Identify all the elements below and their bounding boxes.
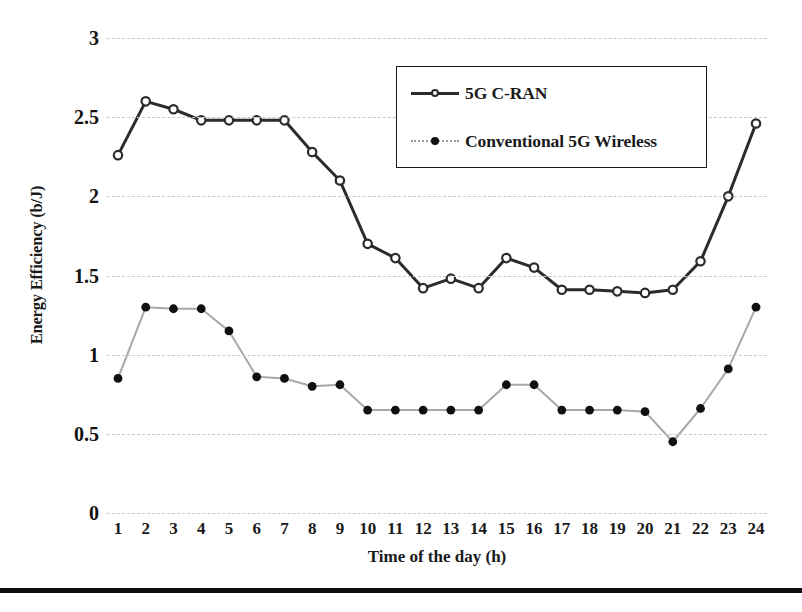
x-tick-label: 10 [359,519,376,539]
gridline [107,434,767,436]
y-tick-label: 3 [89,27,99,50]
x-tick-label: 5 [225,519,234,539]
y-tick-label: 1.5 [74,264,99,287]
x-tick-label: 9 [336,519,345,539]
data-point-marker [557,406,566,415]
data-point-marker [141,303,150,312]
x-tick-label: 24 [748,519,765,539]
data-point-marker [252,372,261,381]
data-point-marker [336,176,344,184]
data-point-marker [197,304,206,313]
y-tick-label: 0 [89,502,99,525]
data-point-marker [502,254,510,262]
x-tick-label: 13 [442,519,459,539]
series-line-conventional [118,307,756,442]
data-point-marker [308,382,317,391]
x-tick-label: 20 [637,519,654,539]
x-tick-label: 21 [664,519,681,539]
legend-entry-5g-c-ran: 5G C-RAN [411,81,547,105]
data-point-marker [585,286,593,294]
legend-entry-conventional-5g-wireless: Conventional 5G Wireless [411,129,657,153]
legend-marker-filled-dot-icon [411,132,459,150]
x-axis-tick-labels: 123456789101112131415161718192021222324 [107,519,767,545]
gridline [107,38,767,40]
x-tick-label: 23 [720,519,737,539]
data-point-marker [308,148,316,156]
data-point-marker [363,240,371,248]
x-tick-label: 12 [415,519,432,539]
bottom-divider [0,588,802,593]
data-point-marker [169,304,178,313]
x-tick-label: 6 [252,519,261,539]
data-point-marker [280,374,289,383]
data-point-marker [336,380,345,389]
data-point-marker [142,97,150,105]
x-axis-title: Time of the day (h) [107,547,767,567]
data-point-marker [613,406,622,415]
data-point-marker [225,327,234,336]
data-point-marker [530,263,538,271]
x-tick-label: 19 [609,519,626,539]
x-tick-label: 3 [169,519,178,539]
data-point-marker [502,380,511,389]
x-tick-label: 11 [387,519,403,539]
data-point-marker [474,406,483,415]
y-tick-label: 1 [89,343,99,366]
x-tick-label: 8 [308,519,317,539]
x-tick-label: 1 [114,519,123,539]
data-point-marker [391,254,399,262]
legend-marker-open-circle-icon [411,84,459,102]
y-axis-title: Energy Efficiency (b/J) [27,120,47,410]
data-point-marker [752,303,761,312]
gridline [107,276,767,278]
data-point-marker [169,105,177,113]
gridline [107,196,767,198]
data-point-marker [114,151,122,159]
data-point-marker [419,284,427,292]
data-point-marker [641,289,649,297]
x-tick-label: 4 [197,519,206,539]
x-tick-label: 7 [280,519,289,539]
data-point-marker [419,406,428,415]
data-point-marker [752,119,760,127]
legend-label-5g-c-ran: 5G C-RAN [465,83,547,104]
x-tick-label: 16 [526,519,543,539]
x-tick-label: 14 [470,519,487,539]
data-point-marker [668,437,677,446]
legend: 5G C-RAN Conventional 5G Wireless [396,66,707,168]
x-tick-label: 15 [498,519,515,539]
gridline [107,513,767,515]
legend-label-conventional-5g-wireless: Conventional 5G Wireless [465,131,657,152]
y-axis-tick-labels: 00.511.522.53 [47,38,99,513]
x-tick-label: 2 [141,519,150,539]
y-tick-label: 2.5 [74,106,99,129]
data-point-marker [474,284,482,292]
data-point-marker [696,404,705,413]
data-point-marker [446,406,455,415]
y-tick-label: 0.5 [74,422,99,445]
data-point-marker [613,287,621,295]
y-tick-label: 2 [89,185,99,208]
data-point-marker [696,257,704,265]
data-point-marker [669,286,677,294]
data-point-marker [724,365,733,374]
data-point-marker [114,374,123,383]
x-tick-label: 22 [692,519,709,539]
figure-container: Energy Efficiency (b/J) 00.511.522.53 12… [0,0,802,612]
x-tick-label: 17 [553,519,570,539]
data-point-marker [585,406,594,415]
x-tick-label: 18 [581,519,598,539]
data-point-marker [530,380,539,389]
data-point-marker [558,286,566,294]
data-point-marker [641,407,650,416]
gridline [107,355,767,357]
data-point-marker [391,406,400,415]
data-point-marker [363,406,372,415]
